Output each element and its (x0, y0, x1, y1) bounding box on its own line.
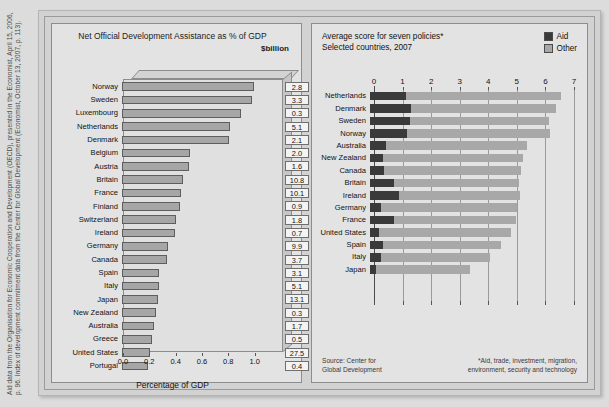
left-chart-bar (122, 136, 229, 145)
left-chart-bar (122, 122, 230, 131)
right-chart-category-label: Britain (312, 179, 370, 187)
left-chart-category-label: United States (52, 349, 122, 357)
left-chart-bar-track (122, 93, 280, 106)
left-chart-bar (122, 229, 175, 238)
left-chart-category-label: Spain (52, 269, 122, 277)
right-chart-row: Netherlands (312, 90, 587, 102)
legend-label: Other (557, 44, 577, 53)
left-chart-row: Belgium2.0 (52, 146, 301, 159)
right-chart-bar-segment-aid (370, 129, 407, 138)
left-chart-value-label: 2.8 (285, 82, 309, 92)
right-chart-bar-segment-other (381, 253, 490, 262)
left-chart-bar-track (122, 160, 280, 173)
source-caption-line-1: Aid data from the Organisation for Econo… (6, 3, 13, 395)
right-chart-bar-track (370, 90, 570, 102)
right-chart-tick-label: 2 (429, 77, 433, 86)
left-chart-category-label: Portugal (52, 362, 122, 370)
chart-frame: Net Official Development Assistance as %… (38, 10, 601, 396)
left-chart-row: Austria1.6 (52, 160, 301, 173)
left-chart-tick (202, 353, 203, 356)
left-chart-bar-track (122, 80, 280, 93)
left-chart-bar (122, 175, 183, 184)
right-chart-tick-bottom (460, 301, 461, 305)
left-chart-bar (122, 242, 168, 251)
left-chart-row: Ireland0.7 (52, 226, 301, 239)
right-chart-category-label: Italy (312, 253, 370, 261)
right-chart-source-note: Source: Center for Global Development (322, 357, 382, 374)
left-chart-row: Britain10.8 (52, 173, 301, 186)
left-chart-row: Denmark2.1 (52, 133, 301, 146)
source-caption-line-2: p. 96. Index of development commitment d… (14, 3, 21, 395)
left-chart-value-label: 0.5 (285, 334, 309, 344)
right-chart-tick-bottom (488, 301, 489, 305)
right-chart-category-label: New Zealand (312, 154, 370, 162)
left-chart-bar-track (122, 306, 280, 319)
right-chart-row: France (312, 214, 587, 226)
right-chart-bar-segment-other (394, 216, 515, 225)
left-chart-tick (149, 353, 150, 356)
left-chart-value-label: 9.9 (285, 241, 309, 251)
left-chart-title: Net Official Development Assistance as %… (52, 31, 293, 41)
right-chart-tick-bottom (403, 301, 404, 305)
left-chart-bar (122, 282, 159, 291)
left-chart-tick-label: 0.8 (223, 357, 233, 366)
left-chart-value-label: 2.1 (285, 135, 309, 145)
right-chart-row: Spain (312, 239, 587, 251)
right-chart-tick-label: 1 (400, 77, 404, 86)
right-chart-bar-segment-other (383, 241, 502, 250)
left-chart-row: Spain3.1 (52, 266, 301, 279)
left-chart-axis-label: Percentage of GDP (52, 380, 293, 390)
left-chart-rows: Norway2.8Sweden3.3Luxembourg0.3Netherlan… (52, 80, 301, 373)
right-chart-title: Average score for seven policies* Select… (322, 32, 443, 53)
left-chart-row: Japan13.1 (52, 293, 301, 306)
left-chart-bar-track (122, 120, 280, 133)
left-chart-tick (123, 353, 124, 356)
left-chart-panel: Net Official Development Assistance as %… (45, 17, 307, 389)
left-chart-value-label: 1.6 (285, 161, 309, 171)
left-chart-bar (122, 295, 158, 304)
left-chart-category-label: Austria (52, 163, 122, 171)
right-chart-bar-segment-aid (370, 216, 394, 225)
left-chart-bar (122, 149, 190, 158)
right-chart-footnote: *Aid, trade, investment, migration, envi… (468, 357, 577, 374)
right-chart-rows: NetherlandsDenmarkSwedenNorwayAustraliaN… (312, 90, 587, 276)
left-chart-row: Greece0.5 (52, 333, 301, 346)
left-chart-value-label: 0.9 (285, 201, 309, 211)
right-chart-bar-segment-aid (370, 154, 383, 163)
right-chart-bar-track (370, 189, 570, 201)
left-chart-category-label: Britain (52, 176, 122, 184)
left-chart-bar (122, 162, 189, 171)
left-chart-category-label: New Zealand (52, 309, 122, 317)
left-chart-bar-track (122, 146, 280, 159)
right-chart-bar-segment-other (386, 141, 527, 150)
right-chart-row: Denmark (312, 102, 587, 114)
right-chart-bar-segment-aid (370, 179, 394, 188)
left-chart-bar (122, 308, 156, 317)
right-chart-bar-segment-other (411, 104, 555, 113)
right-chart-bar-segment-aid (370, 228, 379, 237)
left-chart-row: Sweden3.3 (52, 93, 301, 106)
right-chart-bar-track (370, 115, 570, 127)
right-chart-tick-bottom (574, 301, 575, 305)
left-chart-bar-track (122, 107, 280, 120)
right-chart-bar-track (370, 202, 570, 214)
left-chart-category-label: Greece (52, 335, 122, 343)
right-chart-row: Germany (312, 202, 587, 214)
left-chart-tick-label: 0.4 (170, 357, 180, 366)
right-chart-bar-segment-aid (370, 253, 381, 262)
left-chart-bar (122, 335, 152, 344)
left-chart-bar-track (122, 293, 280, 306)
left-chart-box: Net Official Development Assistance as %… (51, 23, 302, 383)
right-chart-bar-segment-other (399, 191, 520, 200)
right-chart-category-label: Ireland (312, 192, 370, 200)
right-chart-tick-label: 3 (457, 77, 461, 86)
left-chart-unit-label: $billion (261, 44, 289, 53)
left-chart-axis: 0.00.20.40.60.81.0 (123, 353, 283, 375)
right-chart-row: Ireland (312, 189, 587, 201)
left-chart-category-label: Canada (52, 256, 122, 264)
right-chart-legend: AidOther (544, 32, 577, 56)
right-chart-bar-segment-other (407, 129, 550, 138)
left-chart-value-label: 13.1 (285, 294, 309, 304)
left-chart-bar (122, 269, 159, 278)
chart-panels: Net Official Development Assistance as %… (45, 17, 594, 389)
